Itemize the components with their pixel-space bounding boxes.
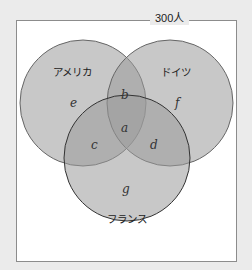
label-america: アメリカ <box>53 66 92 78</box>
label-france: フランス <box>107 213 147 225</box>
region-d: d <box>150 138 158 152</box>
venn-diagram: アメリカ ドイツ フランス a b c d e f g <box>0 0 252 270</box>
region-b: b <box>121 88 129 102</box>
region-e: e <box>70 96 77 110</box>
region-g: g <box>122 182 130 196</box>
region-a: a <box>121 121 128 135</box>
circle-france <box>64 95 190 221</box>
region-c: c <box>91 138 98 152</box>
label-germany: ドイツ <box>161 66 191 78</box>
